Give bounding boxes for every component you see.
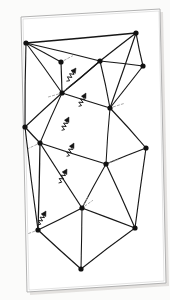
mesh-node xyxy=(58,59,63,64)
mesh-node xyxy=(140,63,145,68)
mesh-node xyxy=(37,140,42,145)
mesh-node xyxy=(22,124,27,129)
mesh-node xyxy=(107,105,112,110)
mesh-node xyxy=(78,266,83,271)
sketch-canvas: Hand-drawn triangulated mesh sketch penc… xyxy=(0,0,170,300)
mesh-node xyxy=(79,205,84,210)
mesh-diagram xyxy=(0,0,170,300)
mesh-node xyxy=(143,145,148,150)
mesh-node xyxy=(59,90,64,95)
mesh-node xyxy=(132,225,137,230)
mesh-node xyxy=(97,58,102,63)
mesh-node xyxy=(103,161,108,166)
mesh-node xyxy=(35,227,40,232)
mesh-node xyxy=(133,30,138,35)
mesh-node xyxy=(23,40,28,45)
